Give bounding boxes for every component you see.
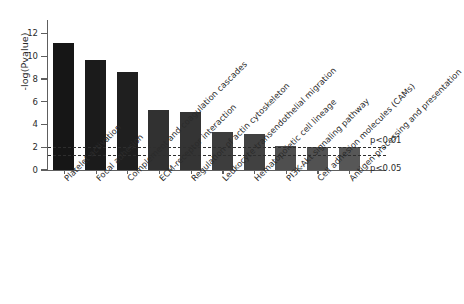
y-tick-label: 8	[33, 74, 38, 84]
y-tick-label: 6	[33, 97, 38, 107]
bar[interactable]	[53, 43, 74, 171]
y-tick-label: 2	[33, 142, 38, 152]
y-tick-12: 12	[41, 33, 47, 34]
y-tick-label: 4	[33, 119, 38, 129]
y-tick-0: 0	[41, 169, 47, 170]
y-axis-title: -log(Pvalue)	[19, 2, 30, 122]
y-tick-10: 10	[41, 56, 47, 57]
y-tick-8: 8	[41, 78, 47, 79]
y-tick-label: 0	[33, 165, 38, 175]
y-tick-label: 10	[27, 51, 38, 61]
threshold-label-p<0.05: p<0.05	[370, 163, 401, 173]
y-tick-6: 6	[41, 101, 47, 102]
y-tick-2: 2	[41, 147, 47, 148]
y-tick-label: 12	[27, 28, 38, 38]
y-tick-4: 4	[41, 124, 47, 125]
